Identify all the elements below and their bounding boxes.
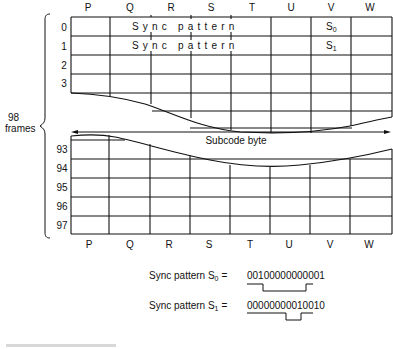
col-footer-v: V: [327, 239, 334, 250]
brace-label-98: 98: [8, 112, 20, 123]
col-footer-q: Q: [126, 239, 134, 250]
subcode-frame-diagram: P Q R S T U V W: [0, 0, 393, 349]
column-headers-top: P Q R S T U V W: [85, 2, 376, 13]
brace-label-frames: frames: [5, 123, 36, 134]
col-header-t: T: [249, 2, 255, 13]
sync-pattern-s0-equation: Sync pattern S0= 00100000000001: [149, 270, 325, 291]
col-footer-w: W: [364, 239, 374, 250]
col-header-w: W: [365, 2, 375, 13]
col-footer-p: P: [86, 239, 93, 250]
bottom-row-labels: 93 94 95 96 97: [56, 144, 68, 231]
column-headers-bottom: P Q R S T U V W: [86, 239, 375, 250]
sync-s0-waveform: [247, 284, 313, 291]
row-label-3: 3: [61, 78, 67, 89]
col-header-p: P: [85, 2, 92, 13]
row-label-0: 0: [61, 22, 67, 33]
row-label-95: 95: [56, 182, 68, 193]
col-footer-r: R: [165, 239, 172, 250]
row-label-94: 94: [56, 163, 68, 174]
sync-s1-bits: 00000000010010: [247, 300, 325, 311]
v-cell-s1: S1: [326, 40, 337, 52]
frames-brace: [40, 14, 50, 238]
row-label-2: 2: [61, 60, 67, 71]
col-footer-s: S: [206, 239, 213, 250]
col-footer-u: U: [285, 239, 292, 250]
caption-faint: [6, 344, 116, 347]
col-header-r: R: [167, 2, 174, 13]
top-grid: [71, 15, 392, 133]
row-label-97: 97: [56, 220, 68, 231]
top-row-labels: 0 1 2 3: [61, 22, 67, 89]
sync-pattern-row0: Sync pattern: [132, 21, 239, 32]
row-label-93: 93: [56, 144, 68, 155]
svg-text:Sync pattern S0=: Sync pattern S0=: [149, 270, 228, 282]
col-header-q: Q: [126, 2, 134, 13]
sync-pattern-row1: Sync pattern: [132, 40, 239, 51]
row-label-1: 1: [61, 41, 67, 52]
col-footer-t: T: [247, 239, 253, 250]
col-header-s: S: [208, 2, 215, 13]
sync-pattern-s1-equation: Sync pattern S1= 00000000010010: [149, 300, 325, 320]
row-label-96: 96: [56, 201, 68, 212]
svg-text:Sync pattern S1=: Sync pattern S1=: [149, 300, 228, 312]
sync-s1-waveform: [247, 313, 313, 320]
sync-s0-bits: 00100000000001: [247, 270, 325, 281]
col-header-v: V: [328, 2, 335, 13]
bottom-grid: [71, 135, 392, 234]
col-header-u: U: [287, 2, 294, 13]
v-cell-s0: S0: [326, 21, 337, 33]
subcode-byte-label: Subcode byte: [205, 135, 267, 146]
